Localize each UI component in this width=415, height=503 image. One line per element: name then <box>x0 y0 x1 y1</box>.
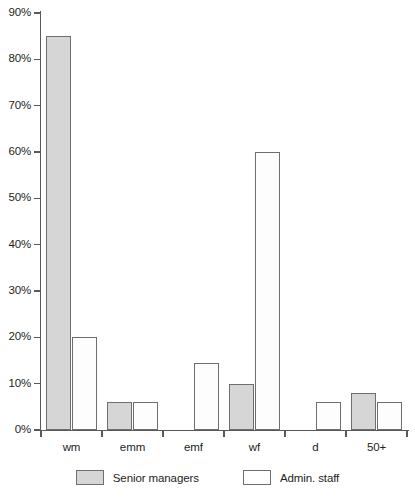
y-axis-tick <box>34 12 41 13</box>
y-axis-tick-label: 30% <box>0 285 31 297</box>
y-axis-tick-label: 10% <box>0 378 31 390</box>
x-axis-tick <box>162 430 163 437</box>
bar-chart: 0%10%20%30%40%50%60%70%80%90% wmemmemfwf… <box>0 0 415 503</box>
bar-50+-admin-staff <box>377 402 402 430</box>
bar-wf-admin-staff <box>255 152 280 430</box>
y-axis-tick-label: 50% <box>0 192 31 204</box>
x-axis-label-wm: wm <box>41 441 102 453</box>
y-axis-tick <box>34 383 41 384</box>
x-axis-tick <box>40 430 41 437</box>
chart-legend: Senior managersAdmin. staff <box>0 470 415 485</box>
y-axis-tick-label: 0% <box>0 424 31 436</box>
y-axis-tick <box>34 290 41 291</box>
x-axis-tick <box>406 430 407 437</box>
x-axis-tick <box>345 430 346 437</box>
legend-item-senior-managers: Senior managers <box>76 470 199 485</box>
x-axis-label-emf: emf <box>163 441 224 453</box>
bar-d-admin-staff <box>316 402 341 430</box>
legend-swatch <box>76 470 104 485</box>
y-axis-tick-label: 20% <box>0 331 31 343</box>
x-axis-label-emm: emm <box>102 441 163 453</box>
y-axis-tick <box>34 105 41 106</box>
bar-wf-senior-managers <box>229 384 254 430</box>
plot-area <box>41 13 407 430</box>
bar-50+-senior-managers <box>351 393 376 430</box>
bar-wm-admin-staff <box>72 337 97 430</box>
x-axis-label-wf: wf <box>224 441 285 453</box>
y-axis-tick <box>34 337 41 338</box>
x-axis-tick <box>223 430 224 437</box>
y-axis-tick <box>34 198 41 199</box>
legend-item-admin-staff: Admin. staff <box>243 470 339 485</box>
bar-emm-admin-staff <box>133 402 158 430</box>
bar-emf-admin-staff <box>194 363 219 430</box>
legend-label: Senior managers <box>113 472 199 484</box>
x-axis-label-d: d <box>285 441 346 453</box>
x-axis-tick <box>284 430 285 437</box>
y-axis-tick-label: 70% <box>0 100 31 112</box>
bar-emm-senior-managers <box>107 402 132 430</box>
x-axis-tick <box>101 430 102 437</box>
y-axis-tick <box>34 244 41 245</box>
legend-label: Admin. staff <box>280 472 339 484</box>
y-axis-tick <box>34 59 41 60</box>
legend-swatch <box>243 470 271 485</box>
y-axis-tick-label: 80% <box>0 53 31 65</box>
y-axis-tick-label: 60% <box>0 146 31 158</box>
bar-wm-senior-managers <box>46 36 71 430</box>
x-axis-label-50+: 50+ <box>346 441 407 453</box>
y-axis-tick-label: 40% <box>0 239 31 251</box>
y-axis-tick <box>34 151 41 152</box>
y-axis-tick-label: 90% <box>0 7 31 19</box>
